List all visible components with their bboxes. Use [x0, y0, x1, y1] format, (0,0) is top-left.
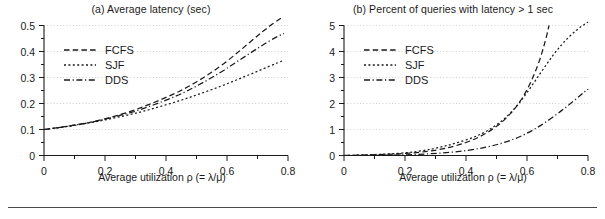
panel-a-plot: 0.5 0.4 0.3 0.2 0.1 0 0 0.2 0.4 0.6 0.8: [0, 0, 302, 200]
panel-b-ytick-1: 1: [329, 124, 335, 136]
panel-a-ytick-5: 0.5: [20, 20, 35, 32]
panel-a-series: [44, 18, 284, 130]
panel-a-ytick-1: 0.1: [20, 124, 35, 136]
panel-a-curve-dds: [44, 34, 284, 130]
panel-b-legend-label-fcfs: FCFS: [405, 44, 434, 56]
panel-a-xlabel: Average utilization ρ (= λ/μ): [0, 171, 302, 183]
panel-a-ytick-2: 0.2: [20, 98, 35, 110]
panel-b-legend-label-sjf: SJF: [405, 59, 425, 71]
panel-a-ytick-4: 0.4: [20, 46, 35, 58]
panel-a-ytick-3: 0.3: [20, 72, 35, 84]
panel-b-ytick-0: 0: [329, 150, 335, 162]
panel-a-curve-sjf: [44, 60, 284, 129]
panel-b-series: [344, 22, 588, 156]
panel-b-curve-dds: [344, 89, 588, 156]
panel-b-axes: [339, 26, 588, 162]
panel-b-ytick-5: 5: [329, 20, 335, 32]
panel-b-curve-fcfs: [344, 26, 549, 156]
panel-a-curve-fcfs: [44, 18, 282, 130]
figure-root: (a) Average latency (sec): [0, 0, 605, 219]
panel-b-curve-sjf: [344, 22, 588, 156]
panel-a-gridlines: [44, 26, 288, 156]
panel-b-legend-label-dds: DDS: [405, 74, 428, 86]
panel-a-ytick-labels: 0.5 0.4 0.3 0.2 0.1 0: [20, 20, 35, 162]
panel-b-xlabel: Average utilization ρ (= λ/μ): [302, 171, 604, 183]
panel-b-legend: FCFS SJF DDS: [364, 44, 434, 86]
panel-b-ytick-3: 3: [329, 72, 335, 84]
chart-panel-b: (b) Percent of queries with latency > 1 …: [302, 0, 604, 200]
panel-a-legend-label-fcfs: FCFS: [105, 44, 134, 56]
panel-b-ytick-labels: 5 4 3 2 1 0: [329, 20, 335, 162]
panel-b-plot: 5 4 3 2 1 0 0 0.2 0.4 0.6 0.8: [302, 0, 604, 200]
panel-a-ytick-0: 0: [29, 150, 35, 162]
panel-a-legend: FCFS SJF DDS: [64, 44, 134, 86]
panel-a-legend-label-sjf: SJF: [105, 59, 125, 71]
panel-a-legend-label-dds: DDS: [105, 74, 128, 86]
panel-b-ytick-4: 4: [329, 46, 335, 58]
panel-a-axes: [39, 26, 288, 162]
panel-b-ytick-2: 2: [329, 98, 335, 110]
figure-bottom-rule: [8, 207, 597, 208]
panel-b-gridlines: [344, 26, 588, 156]
chart-panel-a: (a) Average latency (sec): [0, 0, 302, 200]
